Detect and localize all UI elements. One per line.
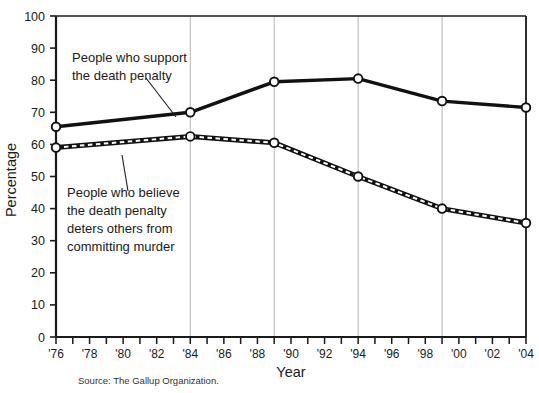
x-tick-label: '88 (250, 347, 266, 361)
x-tick-label: '84 (182, 347, 198, 361)
x-axis-title: Year (276, 364, 305, 380)
data-point-marker (354, 172, 363, 181)
x-tick-label: '02 (485, 347, 501, 361)
y-tick-label: 40 (31, 202, 45, 216)
x-tick-label: '76 (48, 347, 64, 361)
data-point-marker (522, 219, 531, 228)
x-tick-label: '78 (82, 347, 98, 361)
data-point-marker (52, 122, 61, 131)
y-tick-label: 70 (31, 106, 45, 120)
data-point-marker (270, 78, 279, 87)
x-tick-label: '96 (384, 347, 400, 361)
x-tick-label: '94 (350, 347, 366, 361)
data-point-marker (186, 132, 195, 141)
x-tick-label: '98 (417, 347, 433, 361)
source-note: Source: The Gallup Organization. (78, 375, 219, 386)
data-point-marker (186, 108, 195, 117)
support-annotation-line: the death penalty (72, 68, 172, 83)
y-tick-label: 90 (31, 42, 45, 56)
x-tick-label: '80 (115, 347, 131, 361)
data-point-marker (522, 103, 531, 112)
y-axis-title: Percentage (3, 143, 19, 217)
data-point-marker (52, 143, 61, 152)
x-tick-label: '90 (283, 347, 299, 361)
y-tick-label: 60 (31, 138, 45, 152)
x-tick-label: '92 (317, 347, 333, 361)
data-point-marker (270, 138, 279, 147)
y-tick-label: 50 (31, 170, 45, 184)
y-tick-label: 100 (24, 10, 45, 24)
line-chart: 0102030405060708090100 '76'78'80'82'84'8… (0, 0, 539, 393)
support-annotation-line: People who support (72, 50, 187, 65)
x-tick-label: '82 (149, 347, 165, 361)
deterrence-annotation-line: People who believe (67, 185, 180, 200)
y-tick-label: 0 (38, 331, 45, 345)
chart-page: 0102030405060708090100 '76'78'80'82'84'8… (0, 0, 539, 393)
deterrence-annotation-line: deters others from (67, 221, 173, 236)
x-tick-label: '00 (451, 347, 467, 361)
data-point-marker (438, 97, 447, 106)
deterrence-annotation-line: committing murder (67, 239, 175, 254)
data-point-marker (438, 204, 447, 213)
y-tick-label: 20 (31, 266, 45, 280)
y-tick-label: 80 (31, 74, 45, 88)
y-tick-label: 30 (31, 234, 45, 248)
deterrence-annotation-line: the death penalty (67, 203, 167, 218)
data-point-marker (354, 74, 363, 83)
x-tick-label: '04 (518, 347, 534, 361)
y-tick-label: 10 (31, 298, 45, 312)
x-tick-label: '86 (216, 347, 232, 361)
